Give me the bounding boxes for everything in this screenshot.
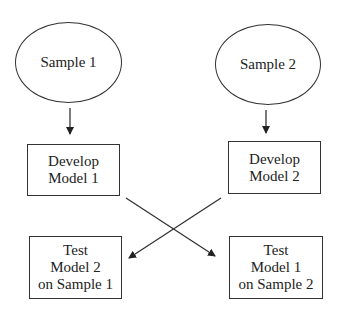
- develop1-line1: Develop: [48, 153, 99, 170]
- sample1-label: Sample 1: [40, 54, 96, 71]
- arrow-develop1-to-test2: [126, 198, 215, 256]
- test2-line3: on Sample 2: [239, 276, 314, 293]
- develop-model2-node: Develop Model 2: [228, 141, 321, 194]
- sample2-label: Sample 2: [240, 56, 296, 73]
- sample1-node: Sample 1: [15, 22, 122, 103]
- develop1-line2: Model 1: [48, 170, 98, 187]
- test-model1-on-sample2-node: Test Model 1 on Sample 2: [229, 236, 323, 299]
- develop-model1-node: Develop Model 1: [27, 144, 120, 196]
- develop2-line2: Model 2: [249, 168, 299, 185]
- test-model2-on-sample1-node: Test Model 2 on Sample 1: [29, 236, 122, 299]
- test1-line1: Test: [63, 242, 88, 259]
- test2-line2: Model 1: [251, 259, 301, 276]
- arrow-develop2-to-test1: [129, 198, 221, 258]
- test2-line1: Test: [264, 242, 289, 259]
- sample2-node: Sample 2: [215, 24, 321, 105]
- test1-line3: on Sample 1: [38, 276, 113, 293]
- test1-line2: Model 2: [50, 259, 100, 276]
- develop2-line1: Develop: [249, 151, 300, 168]
